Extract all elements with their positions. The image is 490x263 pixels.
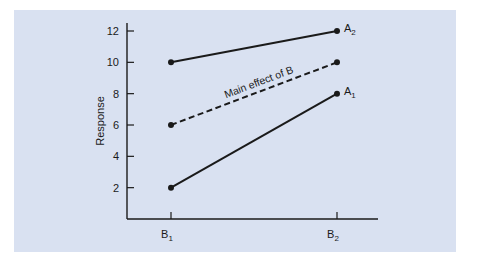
- data-point: [168, 122, 174, 128]
- data-point: [168, 59, 174, 65]
- series-label-a2: A2: [344, 22, 356, 37]
- data-point: [334, 59, 340, 65]
- data-point: [334, 91, 340, 97]
- y-tick-label: 4: [113, 150, 119, 162]
- main-effect-annotation: Main effect of B: [222, 63, 294, 100]
- y-tick-label: 2: [113, 182, 119, 194]
- series-line-main-effect-of-b: [171, 62, 337, 125]
- series-line-a2: [171, 31, 337, 62]
- data-point: [334, 28, 340, 34]
- y-axis-title: Response: [94, 96, 106, 146]
- data-point: [168, 185, 174, 191]
- y-tick-label: 6: [113, 119, 119, 131]
- series-line-a1: [171, 94, 337, 188]
- y-tick-label: 12: [107, 25, 119, 37]
- x-category-label: B1: [161, 228, 173, 243]
- x-category-label: B2: [327, 228, 339, 243]
- series-label-a1: A1: [344, 85, 356, 100]
- y-tick-label: 10: [107, 56, 119, 68]
- line-chart: 24681012ResponseB1B2A2A1Main effect of B: [0, 0, 490, 263]
- y-tick-label: 8: [113, 88, 119, 100]
